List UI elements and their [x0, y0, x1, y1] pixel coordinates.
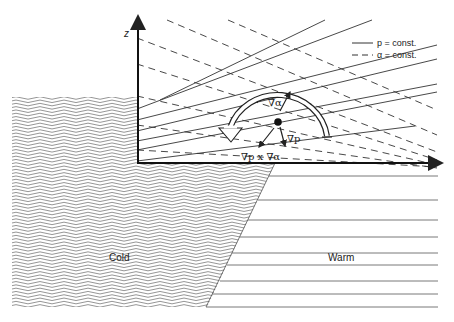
legend-solid-label: p = const. — [377, 38, 416, 48]
legend-dashed-label: α = const. — [377, 50, 416, 60]
cold-region-label: Cold — [109, 252, 130, 263]
warm-region-label: Warm — [328, 252, 354, 263]
legend: p = const. α = const. — [352, 38, 416, 60]
cross-product-label: ∇p x ∇α — [241, 151, 280, 162]
grad-alpha-label: ∇α — [268, 97, 282, 108]
air-parcel-point — [274, 118, 282, 126]
grad-p-label: ∇p — [287, 133, 300, 144]
z-axis-label: z — [123, 28, 129, 39]
cold-air-mass — [10, 97, 298, 311]
baroclinic-diagram: z ∇α ∇p ∇p x ∇α p = const. α = const. Co… — [0, 0, 454, 322]
